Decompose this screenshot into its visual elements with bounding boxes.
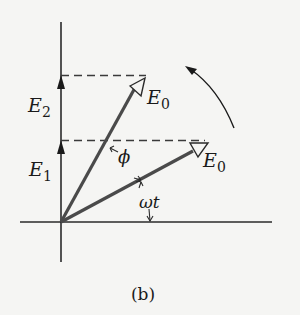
phasor-diagram: E2 E1 E0 E0 ϕ ωt (b) (0, 0, 300, 315)
label-phi: ϕ (118, 146, 130, 167)
label-e1: E1 (28, 158, 52, 184)
label-e0-upper: E0 (146, 86, 170, 112)
e2-arrowhead-icon (57, 75, 65, 89)
label-e2: E2 (27, 94, 51, 120)
figure-caption: (b) (131, 284, 155, 304)
label-e0-lower: E0 (202, 149, 226, 175)
rotation-arrow-curve (190, 69, 234, 128)
e1-arrowhead-icon (57, 140, 65, 154)
label-omega-t: ωt (139, 192, 160, 212)
